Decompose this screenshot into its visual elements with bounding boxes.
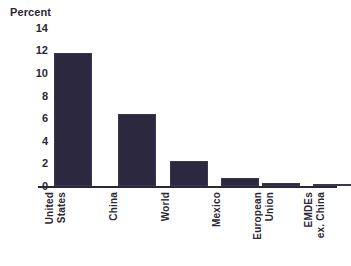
x-label-line: World [160, 192, 171, 221]
bar-china [118, 114, 156, 186]
x-label-line: United [44, 192, 55, 224]
x-label-line: EMDEs [303, 192, 314, 227]
x-label-line: Union [264, 192, 275, 221]
x-label-china: China [108, 192, 120, 266]
bar-united-states [54, 53, 92, 186]
x-label-european-union: European Union [252, 192, 276, 266]
x-axis-baseline [38, 186, 337, 188]
x-label-line: Mexico [211, 192, 222, 227]
x-label-line: China [108, 192, 119, 221]
x-label-mexico: Mexico [211, 192, 223, 266]
x-label-line: ex. China [315, 192, 326, 238]
x-label-united-states: United States [44, 192, 68, 266]
x-label-emdes-ex-china: EMDEs ex. China [303, 192, 327, 266]
bar-world [170, 161, 208, 186]
x-label-world: World [160, 192, 172, 266]
x-label-line: States [56, 192, 67, 223]
x-label-line: European [252, 192, 263, 240]
bars-layer [38, 0, 337, 266]
bar-mexico [221, 178, 259, 186]
